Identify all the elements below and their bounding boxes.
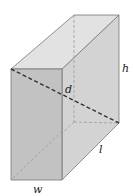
label-h: h [122,62,129,75]
label-d: d [65,83,72,96]
front-face [11,69,62,180]
rectangular-prism-diagram: h d l w [0,0,133,196]
label-w: w [33,183,43,196]
label-l: l [99,143,103,156]
